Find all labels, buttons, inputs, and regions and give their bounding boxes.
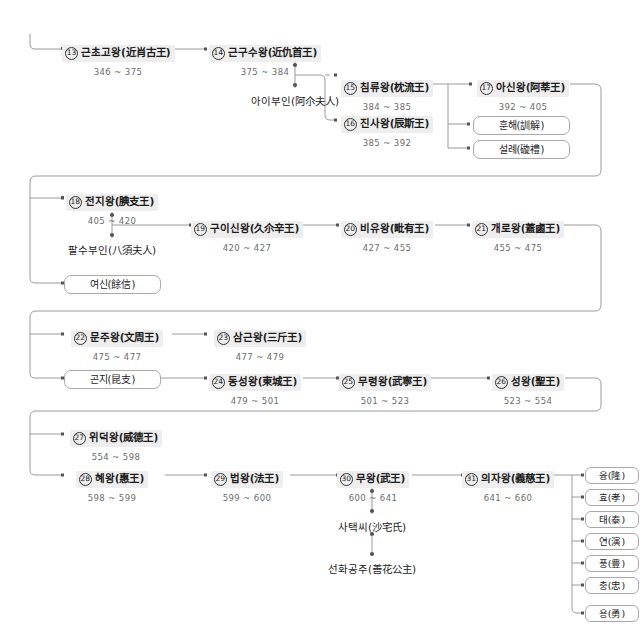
king-name-13: 근초고왕(近肖古王): [81, 46, 171, 58]
king-node-23[interactable]: 23삼근왕(三斤王) 477 ~ 479: [205, 326, 315, 362]
king-number-26: 26: [495, 376, 508, 389]
king-node-17[interactable]: 17아신왕(阿莘王) 392 ~ 405: [473, 76, 573, 112]
king-label-13: 13근초고왕(近肖古王): [62, 45, 175, 62]
consort-name-aibuin: 아이부인(阿尒夫人): [251, 95, 339, 107]
king-node-26[interactable]: 26성왕(聖王) 523 ~ 554: [489, 370, 567, 406]
king-name-20: 비유왕(毗有王): [360, 222, 430, 234]
king-name-16: 진사왕(辰斯王): [360, 117, 430, 129]
king-node-27[interactable]: 27위덕왕(威德王) 554 ~ 598: [62, 426, 170, 462]
king-label-15: 15침류왕(枕流王): [341, 80, 434, 97]
son-name-chung: 충(忠): [599, 580, 625, 591]
king-reign-14: 375 ~ 384: [205, 67, 325, 77]
king-name-17: 아신왕(阿莘王): [496, 81, 566, 93]
king-number-27: 27: [73, 432, 86, 445]
person-box-seolrye[interactable]: 설례(䃠禮): [473, 140, 570, 159]
person-box-yeosin[interactable]: 여신(餘信): [64, 275, 161, 294]
king-label-26: 26성왕(聖王): [492, 374, 565, 391]
consort-node-seonhwa: 선화공주(善花公主): [302, 563, 442, 576]
king-name-19: 구이신왕(久尒辛王): [210, 222, 300, 234]
king-label-20: 20비유왕(毗有王): [341, 221, 434, 238]
king-reign-30: 600 ~ 641: [336, 493, 410, 503]
king-label-17: 17아신왕(阿莘王): [477, 80, 570, 97]
son-box-yung[interactable]: 융(隆): [585, 467, 639, 484]
king-name-15: 침류왕(枕流王): [360, 81, 430, 93]
king-label-22: 22문주왕(文周王): [71, 330, 164, 347]
king-number-25: 25: [342, 376, 355, 389]
king-label-30: 30무왕(武王): [337, 471, 410, 488]
son-box-tae[interactable]: 태(泰): [585, 511, 639, 528]
king-number-18: 18: [69, 196, 82, 209]
son-box-hyo[interactable]: 효(孝): [585, 489, 639, 506]
king-label-28: 28혜왕(惠王): [76, 471, 149, 488]
king-node-20[interactable]: 20비유왕(毗有王) 427 ~ 455: [338, 217, 436, 253]
king-number-31: 31: [465, 473, 478, 486]
genealogy-diagram: .ln{stroke:#9a9a9a;stroke-width:1;fill:n…: [0, 0, 643, 640]
king-node-21[interactable]: 21개로왕(蓋鹵王) 455 ~ 475: [469, 217, 567, 253]
king-name-29: 법왕(法王): [230, 472, 280, 484]
king-number-29: 29: [214, 473, 227, 486]
person-name-yeosin: 여신(餘信): [90, 279, 136, 290]
king-name-31: 의자왕(義慈王): [481, 472, 551, 484]
king-number-17: 17: [480, 82, 493, 95]
king-name-23: 삼근왕(三斤王): [233, 331, 303, 343]
king-reign-20: 427 ~ 455: [338, 243, 436, 253]
person-name-gonji: 곤지(昆支): [90, 374, 136, 385]
king-name-14: 근구수왕(近仇首王): [228, 46, 318, 58]
king-label-23: 23삼근왕(三斤王): [214, 330, 307, 347]
king-number-20: 20: [344, 223, 357, 236]
king-reign-21: 455 ~ 475: [469, 243, 567, 253]
king-node-29[interactable]: 29법왕(法王) 599 ~ 600: [205, 467, 289, 503]
son-name-yong: 용(勇): [599, 608, 625, 619]
king-node-14[interactable]: 14근구수왕(近仇首王) 375 ~ 384: [205, 41, 325, 77]
king-name-27: 위덕왕(威德王): [89, 431, 159, 443]
king-number-30: 30: [340, 473, 353, 486]
king-node-22[interactable]: 22문주왕(文周王) 475 ~ 477: [62, 326, 172, 362]
son-name-pung: 풍(豊): [599, 558, 625, 569]
king-reign-26: 523 ~ 554: [489, 396, 567, 406]
king-number-22: 22: [74, 332, 87, 345]
king-node-24[interactable]: 24동성왕(東城王) 479 ~ 501: [205, 370, 305, 406]
king-name-28: 혜왕(惠王): [95, 472, 145, 484]
king-number-16: 16: [344, 118, 357, 131]
king-reign-27: 554 ~ 598: [62, 452, 170, 462]
person-box-gonji[interactable]: 곤지(昆支): [64, 370, 161, 389]
king-node-28[interactable]: 28혜왕(惠王) 598 ~ 599: [62, 467, 162, 503]
king-node-13[interactable]: 13근초고왕(近肖古王) 346 ~ 375: [62, 41, 174, 77]
king-node-19[interactable]: 19구이신왕(久尒辛王) 420 ~ 427: [190, 217, 304, 253]
king-node-16[interactable]: 16진사왕(辰斯王) 385 ~ 392: [337, 112, 437, 148]
king-reign-28: 598 ~ 599: [62, 493, 162, 503]
king-name-21: 개로왕(蓋鹵王): [491, 222, 561, 234]
son-box-chung[interactable]: 충(忠): [585, 577, 639, 594]
king-node-25[interactable]: 25무령왕(武寧王) 501 ~ 523: [338, 370, 432, 406]
king-node-18[interactable]: 18전지왕(腆支王) 405 ~ 420: [62, 190, 162, 226]
king-number-24: 24: [212, 376, 225, 389]
son-box-yong[interactable]: 용(勇): [585, 605, 639, 622]
king-name-30: 무왕(武王): [356, 472, 406, 484]
king-reign-15: 384 ~ 385: [337, 102, 437, 112]
king-name-22: 문주왕(文周王): [90, 331, 160, 343]
king-name-18: 전지왕(腆支王): [85, 195, 155, 207]
person-name-hunhae: 훈해(訓解): [499, 120, 545, 131]
person-box-hunhae[interactable]: 훈해(訓解): [473, 116, 570, 135]
king-node-30[interactable]: 30무왕(武王) 600 ~ 641: [336, 467, 410, 503]
king-node-15[interactable]: 15침류왕(枕流王) 384 ~ 385: [337, 76, 437, 112]
king-reign-22: 475 ~ 477: [62, 352, 172, 362]
son-box-pung[interactable]: 풍(豊): [585, 555, 639, 572]
king-number-21: 21: [475, 223, 488, 236]
king-label-25: 25무령왕(武寧王): [339, 374, 432, 391]
king-label-29: 29법왕(法王): [211, 471, 284, 488]
king-number-15: 15: [344, 82, 357, 95]
king-reign-23: 477 ~ 479: [205, 352, 315, 362]
son-name-hyo: 효(孝): [599, 492, 625, 503]
king-label-31: 31의자왕(義慈王): [462, 471, 555, 488]
king-node-31[interactable]: 31의자왕(義慈王) 641 ~ 660: [461, 467, 555, 503]
king-number-23: 23: [217, 332, 230, 345]
son-box-yeon[interactable]: 연(演): [585, 533, 639, 550]
king-reign-16: 385 ~ 392: [337, 138, 437, 148]
king-name-26: 성왕(聖王): [511, 375, 561, 387]
son-name-yeon: 연(演): [599, 536, 625, 547]
consort-name-palsubuin: 팔수부인(八須夫人): [68, 244, 156, 256]
king-number-13: 13: [65, 47, 78, 60]
king-label-19: 19구이신왕(久尒辛王): [191, 221, 304, 238]
king-label-14: 14근구수왕(近仇首王): [209, 45, 322, 62]
